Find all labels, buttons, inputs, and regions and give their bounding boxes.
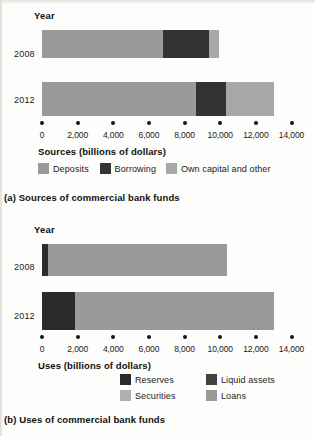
axis-tick-dot bbox=[40, 335, 44, 339]
legend-swatch-icon bbox=[206, 374, 217, 385]
bar-segment-borrowing-2012[interactable] bbox=[196, 82, 226, 116]
axis-tick-dot bbox=[76, 121, 80, 125]
chart-panel-uses: Year 2008 2012 02,0004,0006,0008,00010,0… bbox=[0, 212, 315, 436]
axis-tick-dot bbox=[76, 335, 80, 339]
legend-label: Reserves bbox=[135, 375, 174, 385]
category-label-2008-a: 2008 bbox=[14, 49, 35, 59]
legend-swatch-icon bbox=[38, 163, 49, 174]
legend-label: Own capital and other bbox=[181, 164, 271, 174]
axis-tick-label: 6,000 bbox=[129, 344, 169, 354]
axis-tick-dot bbox=[147, 121, 151, 125]
x-axis-title-uses: Uses (billions of dollars) bbox=[38, 360, 151, 371]
caption-panel-a: (a) Sources of commercial bank funds bbox=[4, 192, 180, 203]
axis-tick-label: 4,000 bbox=[93, 130, 133, 140]
axis-tick-label: 6,000 bbox=[129, 130, 169, 140]
bar-segment-reserves-2012[interactable] bbox=[42, 292, 75, 330]
axis-tick-dot bbox=[218, 121, 222, 125]
axis-tick-label: 0 bbox=[22, 344, 62, 354]
axis-tick-dot bbox=[40, 121, 44, 125]
legend-item[interactable]: Loans bbox=[206, 390, 246, 401]
category-label-2008-b: 2008 bbox=[14, 262, 35, 272]
axis-group-label-year-a: Year bbox=[34, 10, 55, 21]
legend-label: Securities bbox=[135, 391, 176, 401]
legend-label: Borrowing bbox=[115, 164, 156, 174]
axis-tick-label: 0 bbox=[22, 130, 62, 140]
legend-label: Deposits bbox=[53, 164, 89, 174]
legend-item[interactable]: Borrowing bbox=[100, 163, 156, 174]
axis-tick-label: 12,000 bbox=[236, 130, 276, 140]
axis-tick-label: 8,000 bbox=[165, 130, 205, 140]
bar-uses-2012[interactable] bbox=[42, 292, 274, 330]
axis-tick-dot bbox=[111, 335, 115, 339]
legend-item[interactable]: Reserves bbox=[120, 374, 174, 385]
bar-segment-borrowing-2008[interactable] bbox=[163, 30, 209, 58]
bar-segment-loans-2012[interactable] bbox=[75, 292, 274, 330]
bar-segment-loans-2008[interactable] bbox=[48, 244, 227, 276]
axis-tick-dot bbox=[111, 121, 115, 125]
chart-panel-sources: Year 2008 2012 02,0004,0006,0008,00010,0… bbox=[0, 0, 315, 212]
legend-swatch-icon bbox=[100, 163, 111, 174]
bar-sources-2008[interactable] bbox=[42, 30, 219, 58]
axis-tick-label: 14,000 bbox=[272, 130, 312, 140]
legend-item[interactable]: Own capital and other bbox=[166, 163, 271, 174]
bar-sources-2012[interactable] bbox=[42, 82, 274, 116]
legend-item[interactable]: Deposits bbox=[38, 163, 89, 174]
bar-segment-deposits-2012[interactable] bbox=[42, 82, 196, 116]
axis-tick-label: 12,000 bbox=[236, 344, 276, 354]
axis-tick-dot bbox=[290, 121, 294, 125]
axis-tick-label: 4,000 bbox=[93, 344, 133, 354]
legend-item[interactable]: Liquid assets bbox=[206, 374, 275, 385]
category-label-2012-a: 2012 bbox=[14, 95, 35, 105]
axis-tick-label: 2,000 bbox=[58, 344, 98, 354]
legend-item[interactable]: Securities bbox=[120, 390, 176, 401]
axis-tick-dot bbox=[183, 121, 187, 125]
axis-tick-dot bbox=[147, 335, 151, 339]
axis-tick-dot bbox=[254, 121, 258, 125]
category-label-2012-b: 2012 bbox=[14, 311, 35, 321]
caption-panel-b: (b) Uses of commercial bank funds bbox=[4, 414, 165, 425]
axis-tick-dot bbox=[218, 335, 222, 339]
axis-tick-dot bbox=[290, 335, 294, 339]
legend-label: Liquid assets bbox=[221, 375, 275, 385]
legend-label: Loans bbox=[221, 391, 246, 401]
axis-tick-dot bbox=[254, 335, 258, 339]
axis-tick-label: 2,000 bbox=[58, 130, 98, 140]
axis-group-label-year-b: Year bbox=[34, 224, 55, 235]
legend-swatch-icon bbox=[166, 163, 177, 174]
axis-tick-label: 14,000 bbox=[272, 344, 312, 354]
axis-tick-label: 10,000 bbox=[200, 130, 240, 140]
bar-segment-own-capital-2012[interactable] bbox=[226, 82, 274, 116]
bar-segment-own-capital-2008[interactable] bbox=[209, 30, 219, 58]
legend-swatch-icon bbox=[120, 374, 131, 385]
axis-tick-label: 8,000 bbox=[165, 344, 205, 354]
legend-swatch-icon bbox=[120, 390, 131, 401]
legend-swatch-icon bbox=[206, 390, 217, 401]
axis-tick-label: 10,000 bbox=[200, 344, 240, 354]
x-axis-title-sources: Sources (billions of dollars) bbox=[38, 146, 166, 157]
axis-tick-dot bbox=[183, 335, 187, 339]
bar-segment-deposits-2008[interactable] bbox=[42, 30, 163, 58]
bar-uses-2008[interactable] bbox=[42, 244, 227, 276]
